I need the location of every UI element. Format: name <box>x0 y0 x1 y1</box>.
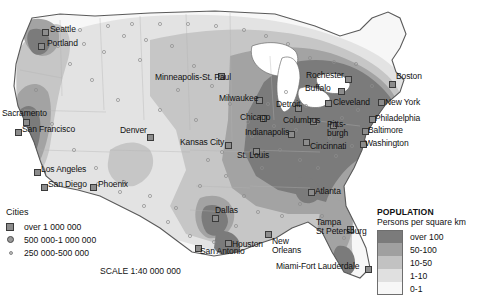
city-label: Buffalo <box>305 84 331 93</box>
city-marker[interactable] <box>338 88 345 95</box>
population-legend-swatch <box>377 282 403 295</box>
city-label: Cincinnati <box>310 142 346 151</box>
city-label: Atlanta <box>315 187 341 196</box>
city-marker[interactable] <box>34 169 41 176</box>
city-label: Minneapolis-St. Paul <box>155 73 231 82</box>
city-marker[interactable] <box>225 142 232 149</box>
population-legend-row: 50-100 <box>377 243 475 256</box>
population-legend-label: 1-10 <box>410 271 427 281</box>
city-label: Tampa St Petersburg <box>316 218 367 236</box>
population-legend-row: 10-50 <box>377 256 475 269</box>
city-label: Chicago <box>240 113 271 122</box>
population-legend-subheader: Persons per square km <box>377 217 475 227</box>
population-legend-rows: over 10050-10010-501-100-1 <box>377 230 475 295</box>
city-marker[interactable] <box>365 266 372 273</box>
population-legend-swatch <box>377 269 403 282</box>
city-label: New Orleans <box>272 237 301 255</box>
city-marker[interactable] <box>41 184 48 191</box>
dot-marker-icon <box>6 251 24 255</box>
city-label: San Diego <box>48 180 87 189</box>
city-label: Boston <box>396 72 422 81</box>
population-legend-row: 1-10 <box>377 269 475 282</box>
city-label: Los Angeles <box>41 165 86 174</box>
cities-legend: Cities over 1 000 000 500 000-1 000 000 … <box>6 207 96 259</box>
population-legend-row: 0-1 <box>377 282 475 295</box>
city-label: Kansas City <box>180 138 224 147</box>
city-marker[interactable] <box>38 43 45 50</box>
circle-marker-icon <box>6 236 24 243</box>
city-label: Indianapolis <box>245 128 289 137</box>
city-label: Baltimore <box>368 126 403 135</box>
cities-legend-item-over-1m: over 1 000 000 <box>6 220 96 233</box>
city-marker[interactable] <box>345 76 352 83</box>
city-label: New York <box>385 98 420 107</box>
city-marker[interactable] <box>325 100 332 107</box>
cities-legend-label-500k-1m: 500 000-1 000 000 <box>24 235 96 245</box>
cities-legend-item-500k-1m: 500 000-1 000 000 <box>6 233 96 246</box>
population-legend: POPULATION Persons per square km over 10… <box>377 207 475 295</box>
city-label: Sacramento <box>2 109 47 118</box>
population-legend-label: over 100 <box>410 232 443 242</box>
city-label: San Antonio <box>200 247 245 256</box>
city-label: Dallas <box>215 206 238 215</box>
cities-legend-item-250k-500k: 250 000-500 000 <box>6 246 96 259</box>
city-label: Phoenix <box>98 180 128 189</box>
city-marker[interactable] <box>212 215 219 222</box>
city-label: Columbus <box>283 116 320 125</box>
city-label: St. Louis <box>237 151 269 160</box>
city-label: Denver <box>120 126 147 135</box>
city-label: Pitts- burgh <box>327 120 348 138</box>
map-scale-text: SCALE 1:40 000 000 <box>100 266 181 276</box>
city-marker[interactable] <box>303 139 310 146</box>
square-marker-icon <box>6 223 24 231</box>
cities-legend-label-250k-500k: 250 000-500 000 <box>24 248 89 258</box>
cities-legend-label-over-1m: over 1 000 000 <box>24 222 81 232</box>
population-legend-label: 0-1 <box>410 284 422 294</box>
cities-legend-title: Cities <box>6 207 96 217</box>
population-legend-header: POPULATION <box>377 207 475 217</box>
city-marker[interactable] <box>378 99 385 106</box>
city-label: Miami-Fort Lauderdale <box>276 262 359 271</box>
city-label: Philadelphia <box>375 114 420 123</box>
city-label: Washington <box>365 139 409 148</box>
population-legend-swatch <box>377 230 403 243</box>
city-marker[interactable] <box>389 81 396 88</box>
population-legend-row: over 100 <box>377 230 475 243</box>
city-marker[interactable] <box>147 134 154 141</box>
city-marker[interactable] <box>90 184 97 191</box>
city-label: Seattle <box>50 25 76 34</box>
city-label: Portland <box>47 39 78 48</box>
city-label: Milwaukee <box>219 94 258 103</box>
city-marker[interactable] <box>42 29 49 36</box>
population-density-map: SeattlePortlandSacramentoSan FranciscoLo… <box>0 0 478 307</box>
city-marker[interactable] <box>265 231 272 238</box>
city-label: San Francisco <box>22 125 75 134</box>
population-legend-swatch <box>377 243 403 256</box>
population-legend-label: 10-50 <box>410 258 432 268</box>
city-label: Rochester <box>306 71 344 80</box>
city-marker[interactable] <box>308 189 315 196</box>
population-legend-swatch <box>377 256 403 269</box>
city-marker[interactable] <box>15 129 22 136</box>
population-legend-label: 50-100 <box>410 245 437 255</box>
city-label: Cleveland <box>333 98 370 107</box>
city-label: Detroit <box>276 100 300 109</box>
